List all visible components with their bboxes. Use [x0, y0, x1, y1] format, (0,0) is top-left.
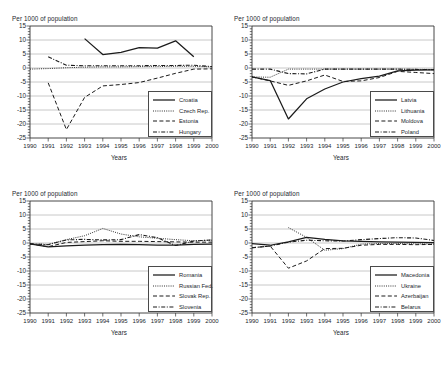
x-tick-label: 1996: [352, 318, 370, 324]
x-tick-label: 2000: [203, 318, 221, 324]
legend-key-icon: [152, 107, 176, 115]
x-tick-label: 2000: [425, 143, 443, 149]
y-tick-label: -25: [232, 309, 248, 316]
y-tick-label: -5: [232, 78, 248, 85]
legend-label: Moldova: [401, 117, 423, 125]
legend-label: Belarus: [401, 303, 421, 311]
legend-key-icon: [152, 128, 176, 136]
legend-key-icon: [374, 292, 398, 300]
x-tick-label: 1997: [148, 143, 166, 149]
y-tick-label: -20: [10, 295, 26, 302]
y-tick-label: -20: [232, 120, 248, 127]
x-tick-label: 1995: [112, 318, 130, 324]
legend-label: Slovenia: [179, 303, 201, 311]
y-tick-label: 10: [232, 36, 248, 43]
x-tick-label: 1993: [76, 318, 94, 324]
legend-item: Estonia: [152, 117, 198, 125]
x-axis-title: Years: [333, 329, 349, 336]
x-tick-label: 1996: [130, 318, 148, 324]
legend-key-icon: [152, 271, 176, 279]
x-tick-label: 1999: [185, 143, 203, 149]
legend-item: Belarus: [374, 303, 421, 311]
y-tick-label: -25: [232, 134, 248, 141]
x-tick-label: 1997: [370, 318, 388, 324]
y-tick-label: -5: [10, 78, 26, 85]
legend-item: Latvia: [374, 96, 416, 104]
legend-item: Slovenia: [152, 303, 201, 311]
legend-label: Russian Fed.: [179, 282, 213, 290]
x-tick-label: 2000: [203, 143, 221, 149]
legend-item: Romania: [152, 271, 202, 279]
legend-item: Hungary: [152, 128, 201, 136]
x-axis-title: Years: [333, 154, 349, 161]
legend-key-icon: [374, 96, 398, 104]
x-tick-label: 1996: [130, 143, 148, 149]
legend-label: Azerbaijan: [401, 292, 428, 300]
series-line: [30, 66, 212, 69]
x-tick-label: 1997: [148, 318, 166, 324]
legend-item: Macedonia: [374, 271, 429, 279]
legend-key-icon: [152, 292, 176, 300]
y-tick-label: -15: [10, 281, 26, 288]
x-tick-label: 1994: [94, 318, 112, 324]
y-tick-label: -5: [232, 253, 248, 260]
legend-key-icon: [374, 282, 398, 290]
x-tick-label: 1992: [57, 143, 75, 149]
x-tick-label: 1990: [21, 143, 39, 149]
x-tick-label: 1991: [261, 143, 279, 149]
y-tick-label: 5: [10, 50, 26, 57]
legend-item: Ukraine: [374, 282, 421, 290]
x-tick-label: 1992: [279, 143, 297, 149]
legend-key-icon: [374, 128, 398, 136]
legend-label: Poland: [401, 128, 419, 136]
x-tick-label: 1994: [94, 143, 112, 149]
y-tick-label: -10: [10, 92, 26, 99]
legend-label: Croatia: [179, 96, 198, 104]
x-tick-label: 1992: [279, 318, 297, 324]
legend-item: Slovak Rep.: [152, 292, 210, 300]
y-tick-label: 5: [232, 50, 248, 57]
y-tick-label: -20: [232, 295, 248, 302]
y-tick-label: 0: [232, 64, 248, 71]
x-tick-label: 1996: [352, 143, 370, 149]
x-tick-label: 1991: [261, 318, 279, 324]
series-line: [252, 69, 434, 74]
x-tick-label: 1995: [112, 143, 130, 149]
legend-item: Czech Rep.: [152, 107, 209, 115]
y-tick-label: 15: [10, 197, 26, 204]
x-tick-label: 1990: [243, 143, 261, 149]
y-tick-label: 0: [232, 239, 248, 246]
y-tick-label: 15: [232, 197, 248, 204]
legend-label: Romania: [179, 271, 202, 279]
series-line: [252, 244, 434, 268]
x-tick-label: 1998: [389, 318, 407, 324]
x-tick-label: 1990: [243, 318, 261, 324]
series-line: [288, 228, 434, 251]
legend-label: Macedonia: [401, 271, 429, 279]
x-tick-label: 1999: [407, 143, 425, 149]
x-tick-label: 1993: [298, 318, 316, 324]
y-tick-label: 0: [10, 239, 26, 246]
x-tick-label: 1998: [389, 143, 407, 149]
x-tick-label: 1991: [39, 143, 57, 149]
legend-item: Azerbaijan: [374, 292, 428, 300]
x-tick-label: 2000: [425, 318, 443, 324]
legend-key-icon: [374, 117, 398, 125]
legend-key-icon: [374, 107, 398, 115]
legend-label: Estonia: [179, 117, 198, 125]
legend-item: Russian Fed.: [152, 282, 213, 290]
legend-key-icon: [152, 117, 176, 125]
y-tick-label: -25: [10, 134, 26, 141]
y-tick-label: -20: [10, 120, 26, 127]
legend-item: Croatia: [152, 96, 198, 104]
chart-panel-top-right: Per 1000 of population151050-5-10-15-20-…: [222, 0, 444, 193]
legend-label: Lithuania: [401, 107, 425, 115]
y-tick-label: -5: [10, 253, 26, 260]
x-tick-label: 1995: [334, 318, 352, 324]
x-tick-label: 1999: [407, 318, 425, 324]
x-tick-label: 1991: [39, 318, 57, 324]
series-line: [252, 71, 434, 85]
legend-label: Hungary: [179, 128, 201, 136]
x-axis-title: Years: [111, 154, 127, 161]
x-tick-label: 1994: [316, 143, 334, 149]
